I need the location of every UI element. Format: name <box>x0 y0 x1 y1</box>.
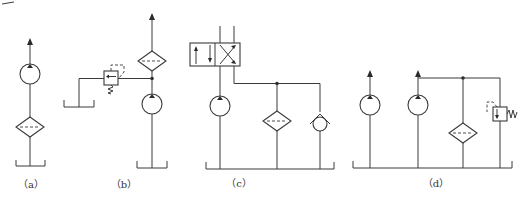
spring-icon <box>108 85 113 94</box>
panel-label-d: （d） <box>423 175 449 190</box>
circuit-b <box>64 13 167 168</box>
relief-valve-icon <box>493 107 507 121</box>
tank-icon <box>353 161 512 168</box>
flow-arrow-icon <box>415 70 421 77</box>
circuit-a <box>16 38 45 166</box>
hydraulic-diagrams <box>0 0 527 198</box>
flow-arrow-icon <box>27 38 33 45</box>
spring-icon <box>507 110 517 118</box>
relief-valve-icon <box>104 71 118 85</box>
circuit-d <box>353 70 517 168</box>
panel-label-a: （a） <box>18 176 44 191</box>
tank-icon <box>206 162 334 169</box>
flow-arrow-icon <box>367 70 373 77</box>
flow-arrow-icon <box>149 13 155 20</box>
panel-label-b: （b） <box>111 176 137 191</box>
panel-label-c: （c） <box>226 175 252 190</box>
partial-caption-fragment <box>2 2 14 4</box>
circuit-c <box>190 26 334 169</box>
